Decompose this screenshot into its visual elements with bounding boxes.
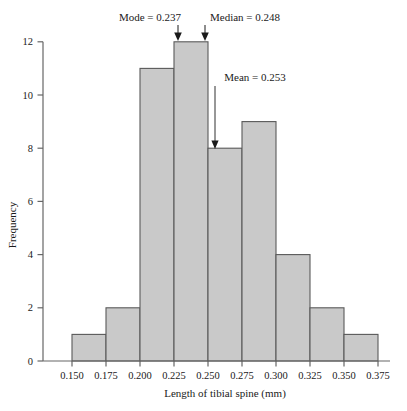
y-tick-label: 10 bbox=[23, 90, 34, 101]
annotation-mode: Mode = 0.237 bbox=[119, 11, 182, 41]
histogram-bar bbox=[242, 122, 276, 361]
histogram-bar bbox=[174, 42, 208, 361]
y-tick-label: 4 bbox=[28, 249, 34, 260]
histogram-bar bbox=[208, 148, 242, 361]
x-tick-label: 0.250 bbox=[196, 370, 220, 381]
x-tick-label: 0.300 bbox=[264, 370, 288, 381]
x-axis-title: Length of tibial spine (mm) bbox=[164, 387, 286, 400]
annotation-mean-label: Mean = 0.253 bbox=[224, 71, 286, 83]
y-tick-label: 8 bbox=[28, 143, 33, 154]
annotation-median-arrowhead bbox=[201, 33, 209, 42]
histogram-bar bbox=[344, 334, 378, 361]
x-tick-label: 0.225 bbox=[162, 370, 186, 381]
x-tick-label: 0.275 bbox=[230, 370, 254, 381]
x-axis-ticks bbox=[72, 361, 378, 367]
x-tick-label: 0.175 bbox=[94, 370, 118, 381]
histogram-bar bbox=[140, 68, 174, 361]
x-axis-tick-labels: 0.150 0.175 0.200 0.225 0.250 0.275 0.30… bbox=[60, 370, 390, 381]
histogram-bar bbox=[72, 334, 106, 361]
histogram-bar bbox=[310, 308, 344, 361]
annotation-median-label: Median = 0.248 bbox=[210, 11, 281, 23]
x-tick-label: 0.350 bbox=[332, 370, 356, 381]
y-axis-title: Frequency bbox=[6, 201, 18, 248]
x-tick-label: 0.200 bbox=[128, 370, 152, 381]
histogram-bar bbox=[106, 308, 140, 361]
histogram-bars bbox=[72, 42, 378, 361]
y-axis-tick-labels: 0 2 4 6 8 10 12 bbox=[23, 36, 34, 366]
x-tick-label: 0.325 bbox=[298, 370, 322, 381]
y-tick-label: 0 bbox=[28, 356, 33, 367]
annotation-median: Median = 0.248 bbox=[201, 11, 280, 41]
annotation-mode-arrowhead bbox=[174, 33, 182, 42]
x-tick-label: 0.150 bbox=[60, 370, 84, 381]
annotation-mode-label: Mode = 0.237 bbox=[119, 11, 182, 23]
tibial-spine-histogram: 0 2 4 6 8 10 12 0.150 0.175 0.200 0.22 bbox=[0, 0, 407, 411]
histogram-bar bbox=[276, 255, 310, 361]
y-tick-label: 6 bbox=[28, 196, 33, 207]
y-axis-ticks bbox=[38, 42, 44, 361]
histogram-figure: 0 2 4 6 8 10 12 0.150 0.175 0.200 0.22 bbox=[0, 0, 407, 411]
y-tick-label: 2 bbox=[28, 302, 33, 313]
y-tick-label: 12 bbox=[23, 36, 34, 47]
x-tick-label: 0.375 bbox=[366, 370, 390, 381]
